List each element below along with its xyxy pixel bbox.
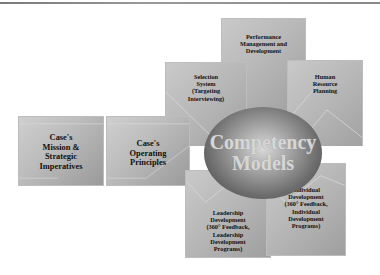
node-operating-principles: Case's Operating Principles [106,116,190,186]
center-label: Competency Models [204,132,322,174]
node-label: Case's Operating Principles [107,139,189,168]
node-mission-strategic-imperatives: Case's Mission & Strategic Imperatives [18,116,104,186]
node-label: Case's Mission & Strategic Imperatives [19,133,103,172]
top-rule [0,2,380,4]
node-label: Selection System (Targeting Interviewing… [166,73,246,102]
competency-models-sphere: Competency Models [204,107,322,199]
node-label: Human Resource Planning [288,73,362,95]
node-label: Leadership Development (360° Feedback, L… [186,209,270,252]
node-label: Performance Management and Development [222,33,305,55]
